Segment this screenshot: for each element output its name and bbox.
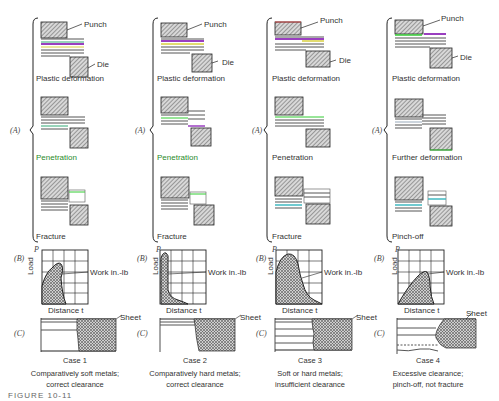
sheet-edge-section-1 <box>40 318 130 354</box>
row-label-b: (B) <box>137 254 147 263</box>
row-label-a: (A) <box>135 126 145 135</box>
figure-label: FIGURE 10-11 <box>8 391 72 400</box>
case-desc-line2: insufficient clearance <box>250 379 370 390</box>
case-title: Case 4 <box>368 355 488 366</box>
axis-p-symbol: P <box>34 245 39 254</box>
case-desc-line1: Soft or hard metals; <box>250 368 370 379</box>
stage-label: Fracture <box>157 232 187 241</box>
punch-die-stage-1 <box>40 20 120 80</box>
x-axis-label: Distance t <box>166 306 202 315</box>
x-axis-label: Distance t <box>48 306 84 315</box>
sheet-edge-section-2 <box>159 318 249 354</box>
punch-die-stage-1 <box>394 18 474 78</box>
stage-label: Plastic deformation <box>272 74 340 83</box>
sheet-callout: Sheet <box>356 313 377 322</box>
stage-label: Further deformation <box>392 153 462 162</box>
brace-a-3 <box>264 18 274 243</box>
brace-a-4 <box>384 18 394 243</box>
sheet-callout: Sheet <box>120 313 141 322</box>
punch-die-stage-2 <box>274 95 354 155</box>
punch-die-stage-3 <box>394 175 474 235</box>
case-caption-3: Case 3 Soft or hard metals; insufficient… <box>250 355 370 390</box>
row-label-a: (A) <box>252 126 262 135</box>
sheet-callout: Sheet <box>466 309 487 318</box>
die-callout: Die <box>460 53 472 62</box>
case-title: Case 1 <box>15 355 135 366</box>
stage-label: Penetration <box>36 153 77 162</box>
punch-die-stage-2 <box>394 95 474 155</box>
y-axis-label: Load <box>266 257 275 275</box>
x-axis-label: Distance t <box>404 306 440 315</box>
punch-die-stage-1 <box>274 20 354 80</box>
work-callout: Work in.-lb <box>324 268 362 277</box>
work-callout: Work in.-lb <box>208 268 246 277</box>
sheet-edge-section-4 <box>396 318 486 358</box>
punch-die-stage-2 <box>40 95 120 155</box>
stage-label: Plastic deformation <box>36 74 104 83</box>
case-desc-line2: correct clearance <box>135 379 255 390</box>
row-label-c: (C) <box>374 329 385 338</box>
row-label-a: (A) <box>10 126 20 135</box>
row-label-c: (C) <box>256 329 267 338</box>
punch-callout: Punch <box>84 20 107 29</box>
case-caption-4: Case 4 Excessive clearance; pinch-off, n… <box>368 355 488 390</box>
stage-label: Fracture <box>272 232 302 241</box>
y-axis-label: Load <box>26 257 35 275</box>
row-label-b: (B) <box>374 254 384 263</box>
row-label-a: (A) <box>372 126 382 135</box>
work-callout: Work in.-lb <box>90 268 128 277</box>
die-callout: Die <box>339 56 351 65</box>
brace-a-1 <box>30 18 40 243</box>
row-label-b: (B) <box>256 254 266 263</box>
case-caption-2: Case 2 Comparatively hard metals; correc… <box>135 355 255 390</box>
load-distance-plot-4 <box>398 250 499 310</box>
stage-label: Plastic deformation <box>157 74 225 83</box>
stage-label: Pinch-off <box>392 232 423 241</box>
case-caption-1: Case 1 Comparatively soft metals; correc… <box>15 355 135 390</box>
case-desc-line1: Comparatively soft metals; <box>15 368 135 379</box>
case-desc-line1: Comparatively hard metals; <box>135 368 255 379</box>
punch-die-stage-2 <box>160 95 240 155</box>
stage-label: Penetration <box>157 153 198 162</box>
punch-callout: Punch <box>441 14 464 23</box>
stage-label: Plastic deformation <box>392 74 460 83</box>
stage-label: Penetration <box>272 153 313 162</box>
sheet-edge-section-3 <box>274 318 364 354</box>
case-desc-line2: correct clearance <box>15 379 135 390</box>
punch-die-stage-3 <box>40 175 120 235</box>
row-label-c: (C) <box>137 329 148 338</box>
sheet-callout: Sheet <box>240 313 261 322</box>
punch-die-stage-1 <box>160 20 240 80</box>
row-label-b: (B) <box>14 254 24 263</box>
case-title: Case 3 <box>250 355 370 366</box>
punch-callout: Punch <box>204 20 227 29</box>
y-axis-label: Load <box>151 257 160 275</box>
case-desc-line1: Excessive clearance; <box>368 368 488 379</box>
stage-label: Fracture <box>36 232 66 241</box>
case-title: Case 2 <box>135 355 255 366</box>
row-label-c: (C) <box>14 329 25 338</box>
punch-die-stage-3 <box>160 175 240 235</box>
case-desc-line2: pinch-off, not fracture <box>368 379 488 390</box>
die-callout: Die <box>97 60 109 69</box>
die-callout: Die <box>222 58 234 67</box>
brace-a-2 <box>150 18 160 243</box>
work-callout: Work in.-lb <box>446 268 484 277</box>
punch-callout: Punch <box>320 16 343 25</box>
x-axis-label: Distance t <box>282 306 318 315</box>
punch-die-stage-3 <box>274 175 354 235</box>
